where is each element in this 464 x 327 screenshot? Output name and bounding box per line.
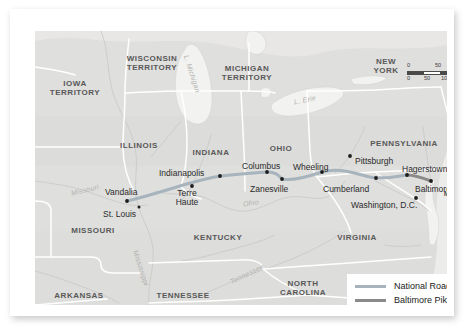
legend-item-national-road: National Road: [355, 279, 447, 293]
scale-seg-2: [424, 72, 440, 74]
paper-texture: [35, 31, 447, 305]
city-dot-cumberland: [374, 176, 378, 180]
map-paper-card: IOWATERRITORYWISCONSINTERRITORYMICHIGANT…: [10, 9, 454, 316]
national-road-map-figure: IOWATERRITORYWISCONSINTERRITORYMICHIGANT…: [0, 0, 464, 327]
scale-mi-tick-0: 0: [407, 62, 410, 68]
scale-seg-1: [408, 72, 424, 74]
city-dot-indianapolis: [218, 174, 222, 178]
city-dot-st-louis: [138, 206, 141, 209]
scale-bar-miles-ticks: 0 50 100 mi: [407, 62, 447, 70]
city-dot-hagerstown: [405, 173, 409, 177]
scale-bar-km-ticks: 0 50 100 km: [407, 75, 447, 83]
scale-mi-tick-50: 50: [435, 62, 441, 68]
scale-seg-3: [440, 72, 447, 74]
map-plate: IOWATERRITORYWISCONSINTERRITORYMICHIGANT…: [35, 31, 447, 305]
legend-label-baltimore-pike: Baltimore Pike: [394, 295, 447, 305]
city-dot-vandalia: [125, 199, 129, 203]
scale-bar-graphic: [407, 71, 447, 75]
map-geography-svg: [35, 31, 447, 305]
legend-item-baltimore-pike: Baltimore Pike: [355, 293, 447, 305]
scale-km-tick-0: 0: [407, 75, 410, 81]
map-legend: National Road Baltimore Pike: [347, 274, 447, 305]
scale-km-tick-100: 100 km: [441, 75, 447, 81]
city-dot-pittsburgh: [348, 154, 352, 158]
scale-bar: 0 50 100 mi 0 50 100 km: [407, 62, 447, 83]
scale-km-tick-50: 50: [424, 75, 430, 81]
city-dot-washington-dc: [414, 196, 418, 200]
city-dot-baltimore: [429, 179, 433, 183]
legend-swatch-national-road: [355, 285, 386, 288]
city-dot-columbus: [265, 170, 269, 174]
legend-swatch-baltimore-pike: [355, 299, 386, 302]
legend-label-national-road: National Road: [394, 281, 447, 291]
city-dot-terre-haute: [190, 184, 194, 188]
city-dot-wheeling: [320, 170, 324, 174]
city-dot-zanesville: [280, 177, 284, 181]
